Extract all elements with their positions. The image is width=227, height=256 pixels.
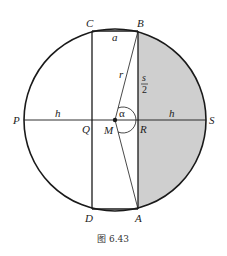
figure-caption: 图 6.43 — [97, 234, 129, 244]
label-M: M — [103, 124, 114, 136]
label-s-denominator: 2 — [142, 84, 147, 95]
label-a: a — [112, 31, 118, 43]
label-h-left: h — [55, 107, 61, 119]
label-Q: Q — [82, 123, 90, 135]
label-R: R — [139, 123, 147, 135]
label-A: A — [134, 212, 142, 224]
label-alpha: α — [119, 107, 125, 119]
label-D: D — [84, 212, 93, 224]
label-P: P — [12, 114, 20, 126]
label-h-right: h — [169, 107, 175, 119]
label-C: C — [86, 17, 94, 29]
circle-segment-diagram: C B P S Q M R D A a r s 2 h h α 图 6.43 — [0, 0, 227, 256]
label-S: S — [209, 114, 215, 126]
label-s-numerator: s — [142, 72, 146, 83]
center-point-M — [113, 118, 117, 122]
radius-MA — [115, 120, 138, 209]
label-B: B — [137, 17, 144, 29]
label-r: r — [119, 68, 124, 80]
